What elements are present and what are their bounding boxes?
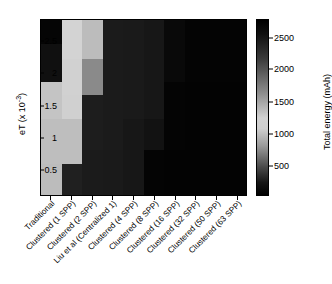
heatmap-cell [123, 95, 144, 119]
y-axis-tick-mark [40, 72, 44, 73]
heatmap-cell [164, 82, 185, 95]
heatmap-cell [205, 82, 226, 95]
heatmap-cell [82, 150, 103, 165]
heatmap-cell [205, 150, 226, 165]
y-axis-tick-label: 2 [52, 68, 57, 78]
heatmap-cell [82, 95, 103, 119]
heatmap-cell [185, 82, 206, 95]
heatmap-cell [185, 164, 206, 195]
colorbar-tick-label: 500 [274, 161, 289, 171]
heatmap-cell [185, 20, 206, 44]
heatmap-cell [144, 82, 165, 95]
heatmap-cell [103, 164, 124, 195]
heatmap-column [82, 20, 103, 195]
heatmap-cell [123, 44, 144, 59]
heatmap-cell [62, 164, 83, 195]
heatmap-cell [144, 20, 165, 44]
heatmap-cell [144, 150, 165, 165]
heatmap-cell [226, 95, 247, 119]
heatmap-cell [103, 119, 124, 150]
heatmap-column [226, 20, 247, 195]
heatmap-cell [62, 44, 83, 59]
colorbar-tick-label: 1000 [274, 129, 294, 139]
heatmap-column [123, 20, 144, 195]
colorbar-tick-label: 2500 [274, 33, 294, 43]
y-axis-tick-label: 1.5 [44, 101, 57, 111]
heatmap-cell [123, 164, 144, 195]
heatmap-cell [103, 44, 124, 59]
heatmap-cell [226, 119, 247, 150]
heatmap-cell [62, 95, 83, 119]
heatmap-cell [185, 95, 206, 119]
heatmap-cell [82, 44, 103, 59]
heatmap-cell [144, 59, 165, 83]
heatmap-cell [62, 20, 83, 44]
heatmap-cell [226, 44, 247, 59]
heatmap-cell [226, 20, 247, 44]
heatmap-cell [82, 82, 103, 95]
heatmap-cell [144, 164, 165, 195]
heatmap-cell [226, 59, 247, 83]
heatmap-cell [144, 119, 165, 150]
heatmap-cell [185, 59, 206, 83]
colorbar-tick-mark [269, 69, 273, 70]
heatmap-cell [205, 164, 226, 195]
heatmap-cell [164, 95, 185, 119]
heatmap-cell [226, 82, 247, 95]
heatmap-column [103, 20, 124, 195]
heatmap-cell [123, 119, 144, 150]
heatmap-cell [144, 95, 165, 119]
heatmap-cell [205, 20, 226, 44]
heatmap-cell [62, 150, 83, 165]
colorbar-label: Total energy (mAh) [322, 47, 332, 177]
colorbar-tick-label: 2000 [274, 64, 294, 74]
colorbar-tick-mark [269, 134, 273, 135]
heatmap-cell [185, 119, 206, 150]
y-axis-tick-mark [40, 105, 44, 106]
heatmap-cell [123, 20, 144, 44]
heatmap-cell [185, 44, 206, 59]
heatmap-cell [62, 119, 83, 150]
heatmap-grid [41, 20, 246, 195]
heatmap-cell [205, 44, 226, 59]
heatmap-cell [82, 164, 103, 195]
heatmap-cell [62, 82, 83, 95]
heatmap-plot-area[interactable] [40, 19, 247, 196]
heatmap-cell [164, 44, 185, 59]
colorbar-gradient[interactable] [256, 19, 269, 196]
heatmap-cell [226, 150, 247, 165]
heatmap-column [185, 20, 206, 195]
heatmap-cell [205, 119, 226, 150]
heatmap-cell [82, 20, 103, 44]
heatmap-cell [82, 119, 103, 150]
heatmap-column [205, 20, 226, 195]
y-axis-tick-label: 2.5 [44, 36, 57, 46]
heatmap-cell [103, 150, 124, 165]
heatmap-column [164, 20, 185, 195]
heatmap-column [144, 20, 165, 195]
heatmap-cell [205, 95, 226, 119]
heatmap-cell [123, 59, 144, 83]
colorbar-tick-label: 1500 [274, 97, 294, 107]
heatmap-cell [41, 150, 62, 165]
heatmap-cell [41, 82, 62, 95]
heatmap-cell [123, 150, 144, 165]
heatmap-cell [103, 59, 124, 83]
y-axis-tick-mark [40, 170, 44, 171]
y-axis-tick-mark [40, 137, 44, 138]
colorbar-tick-mark [269, 101, 273, 102]
heatmap-cell [82, 59, 103, 83]
heatmap-cell [103, 20, 124, 44]
heatmap-cell [164, 59, 185, 83]
heatmap-cell [164, 119, 185, 150]
heatmap-cell [164, 20, 185, 44]
y-axis-label: eT (x 10-3) [15, 69, 27, 159]
heatmap-cell [164, 164, 185, 195]
y-axis-label-exponent: -3 [15, 96, 22, 102]
y-axis-tick-label: 0.5 [44, 165, 57, 175]
y-axis-label-suffix: ) [17, 93, 27, 96]
heatmap-cell [103, 95, 124, 119]
heatmap-cell [185, 150, 206, 165]
y-axis-label-text: eT (x 10 [17, 102, 27, 135]
